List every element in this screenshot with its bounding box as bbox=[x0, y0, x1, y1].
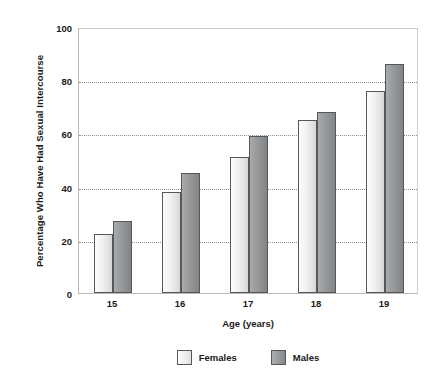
y-axis-tick-label: 0 bbox=[44, 289, 72, 300]
bar-females-19[interactable] bbox=[366, 91, 385, 293]
bar-females-16[interactable] bbox=[162, 192, 181, 293]
bar-females-17[interactable] bbox=[230, 157, 249, 293]
legend-swatch-females-icon bbox=[177, 350, 192, 365]
x-axis-title: Age (years) bbox=[78, 318, 418, 329]
x-axis-tick-label: 16 bbox=[161, 298, 199, 309]
bar-males-15[interactable] bbox=[113, 221, 132, 293]
bars-layer bbox=[79, 29, 417, 293]
bar-males-16[interactable] bbox=[181, 173, 200, 293]
bar-females-18[interactable] bbox=[298, 120, 317, 293]
y-axis-tick-label: 80 bbox=[44, 76, 72, 87]
bar-males-18[interactable] bbox=[317, 112, 336, 293]
bar-group bbox=[298, 29, 336, 293]
bar-group bbox=[230, 29, 268, 293]
legend-item-males[interactable]: Males bbox=[271, 350, 319, 365]
x-axis-tick-label: 15 bbox=[93, 298, 131, 309]
x-axis-tick-labels: 1516171819 bbox=[78, 298, 418, 314]
x-axis-tick-label: 19 bbox=[365, 298, 403, 309]
legend-swatch-males-icon bbox=[271, 350, 286, 365]
x-axis-tick-label: 17 bbox=[229, 298, 267, 309]
legend-label: Males bbox=[293, 352, 319, 363]
bar-group bbox=[366, 29, 404, 293]
y-axis-tick-labels: 020406080100 bbox=[44, 0, 72, 390]
legend-label: Females bbox=[199, 352, 237, 363]
y-axis-tick-label: 100 bbox=[44, 23, 72, 34]
y-axis-tick-label: 60 bbox=[44, 129, 72, 140]
bar-males-17[interactable] bbox=[249, 136, 268, 293]
bar-group bbox=[162, 29, 200, 293]
bar-chart: Percentage Who Have Had Sexual Intercour… bbox=[0, 0, 438, 390]
bar-females-15[interactable] bbox=[94, 234, 113, 293]
plot-area bbox=[78, 28, 418, 294]
y-axis-tick-label: 20 bbox=[44, 235, 72, 246]
bar-males-19[interactable] bbox=[385, 64, 404, 293]
bar-group bbox=[94, 29, 132, 293]
legend-item-females[interactable]: Females bbox=[177, 350, 237, 365]
chart-legend: FemalesMales bbox=[78, 350, 418, 365]
y-axis-tick-label: 40 bbox=[44, 182, 72, 193]
x-axis-tick-label: 18 bbox=[297, 298, 335, 309]
